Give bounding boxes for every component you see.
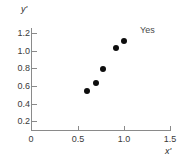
scatter-chart: y' 1.2 1.0 0.8 0.6 0.4 0.2 0 0.5 1.0 1.5…	[0, 0, 186, 164]
data-point	[100, 66, 106, 72]
chart-annotation-yes: Yes	[140, 25, 155, 35]
plot-area	[0, 0, 186, 164]
data-point	[113, 45, 119, 51]
data-point	[121, 38, 127, 44]
data-point	[93, 80, 99, 86]
data-point	[84, 88, 90, 94]
